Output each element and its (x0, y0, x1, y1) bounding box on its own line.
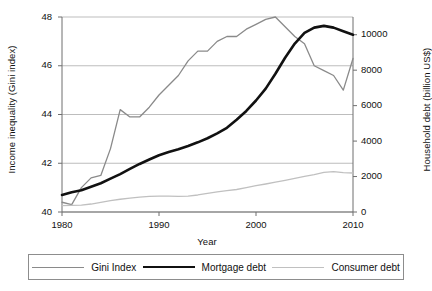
consumer-line-swatch (272, 267, 324, 268)
y-left-tick-46: 46 (26, 59, 52, 70)
legend-label-gini: Gini Index (91, 262, 136, 273)
y-left-tick-44: 44 (26, 108, 52, 119)
x-axis-title: Year (162, 236, 252, 247)
axis-ticks (58, 17, 357, 216)
x-tick-2000: 2000 (236, 219, 276, 230)
legend-item-mortgage[interactable]: Mortgage debt (143, 262, 267, 273)
series-line-consumer-debt (62, 172, 353, 206)
y-left-tick-48: 48 (26, 11, 52, 22)
x-tick-1990: 1990 (139, 219, 179, 230)
mortgage-line-swatch (143, 266, 195, 268)
data-series-group (62, 17, 353, 206)
gini-line-swatch (32, 267, 84, 268)
y-axis-left-title: Income inequality (Gini index) (6, 30, 17, 190)
legend-item-consumer[interactable]: Consumer debt (272, 262, 399, 273)
gridlines (62, 17, 353, 212)
legend-label-consumer: Consumer debt (331, 262, 399, 273)
y-right-tick-0: 0 (361, 206, 401, 217)
y-right-tick-8000: 8000 (361, 64, 401, 75)
y-left-tick-40: 40 (26, 206, 52, 217)
series-line-gini-index (62, 17, 353, 205)
y-right-tick-10000: 10000 (361, 28, 401, 39)
x-tick-1980: 1980 (42, 219, 82, 230)
legend-label-mortgage: Mortgage debt (202, 262, 267, 273)
y-right-tick-4000: 4000 (361, 135, 401, 146)
x-tick-2010: 2010 (333, 219, 373, 230)
y-right-tick-6000: 6000 (361, 99, 401, 110)
legend-item-gini[interactable]: Gini Index (32, 262, 136, 273)
y-left-tick-42: 42 (26, 157, 52, 168)
y-axis-right-title: Household debt (billion US$) (421, 22, 432, 197)
chart-legend: Gini Index Mortgage debt Consumer debt (28, 254, 404, 280)
y-right-tick-2000: 2000 (361, 170, 401, 181)
